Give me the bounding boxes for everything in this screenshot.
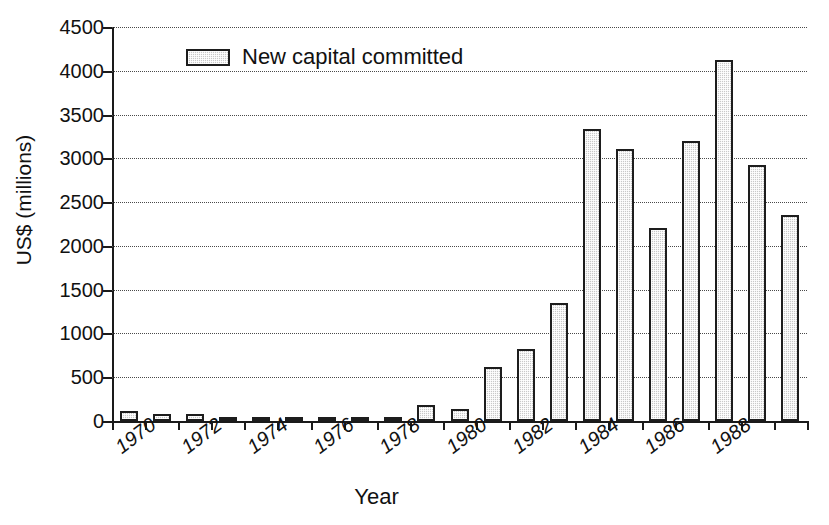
y-axis-tick xyxy=(103,290,112,292)
y-axis-tick-label: 4500 xyxy=(42,17,104,37)
bar xyxy=(682,141,700,421)
y-axis-tick-label: 500 xyxy=(42,367,104,387)
y-axis-title: US$ (millions) xyxy=(12,100,36,300)
gridline xyxy=(112,333,807,334)
bar xyxy=(186,414,204,421)
x-axis-tick xyxy=(443,421,445,430)
gridline xyxy=(112,27,807,28)
legend-label: New capital committed xyxy=(242,44,463,70)
plot-area: New capital committed xyxy=(112,27,807,421)
x-axis-tick xyxy=(311,421,313,430)
bar xyxy=(219,417,237,421)
x-axis-tick xyxy=(377,421,379,430)
y-axis-tick xyxy=(103,71,112,73)
bar xyxy=(285,417,303,421)
y-axis-tick-label: 2500 xyxy=(42,192,104,212)
gridline xyxy=(112,377,807,378)
chart-figure: US$ (millions) 0500100015002000250030003… xyxy=(0,0,829,525)
x-axis-tick xyxy=(774,421,776,430)
gridline xyxy=(112,202,807,203)
x-axis-tick xyxy=(509,421,511,430)
x-axis-tick xyxy=(807,421,809,430)
gridline xyxy=(112,71,807,72)
y-axis-tick-label: 1500 xyxy=(42,280,104,300)
y-axis-tick-label: 4000 xyxy=(42,61,104,81)
gridline xyxy=(112,158,807,159)
y-axis-tick xyxy=(103,421,112,423)
bar xyxy=(120,411,138,422)
y-axis-tick xyxy=(103,158,112,160)
y-axis-line xyxy=(112,27,114,421)
bar xyxy=(781,215,799,421)
gridline xyxy=(112,246,807,247)
bar xyxy=(748,165,766,421)
bar xyxy=(715,60,733,421)
x-axis-title-text: Year xyxy=(354,484,398,509)
x-axis-tick xyxy=(112,421,114,430)
y-axis-tick-label: 3000 xyxy=(42,148,104,168)
x-axis-tick xyxy=(244,421,246,430)
bar xyxy=(484,367,502,421)
gridline xyxy=(112,290,807,291)
x-axis-tick xyxy=(708,421,710,430)
bar xyxy=(517,349,535,421)
y-axis-tick-label: 3500 xyxy=(42,105,104,125)
bar xyxy=(649,228,667,421)
y-axis-tick xyxy=(103,377,112,379)
y-axis-tick-label: 0 xyxy=(42,411,104,431)
gridline xyxy=(112,115,807,116)
bar xyxy=(451,409,469,421)
y-axis-tick xyxy=(103,202,112,204)
y-axis-tick-label: 2000 xyxy=(42,236,104,256)
y-axis-tick xyxy=(103,333,112,335)
y-axis-tick-label: 1000 xyxy=(42,323,104,343)
x-axis-tick xyxy=(642,421,644,430)
x-axis-title: Year xyxy=(0,484,829,510)
x-axis-tick xyxy=(178,421,180,430)
bar xyxy=(550,303,568,421)
bar xyxy=(616,149,634,421)
y-axis-tick xyxy=(103,115,112,117)
chart-legend: New capital committed xyxy=(186,44,463,70)
bar xyxy=(417,405,435,421)
y-axis-tick xyxy=(103,246,112,248)
bar xyxy=(583,129,601,421)
y-axis-tick xyxy=(103,27,112,29)
bar xyxy=(153,414,171,421)
bar xyxy=(351,417,369,421)
legend-swatch-icon xyxy=(186,49,230,66)
y-axis-tick-labels: 050010001500200025003000350040004500 xyxy=(42,0,104,525)
x-axis-tick xyxy=(575,421,577,430)
